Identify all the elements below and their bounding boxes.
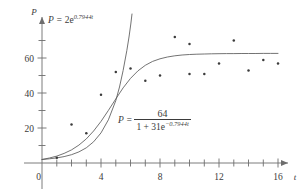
logistic-denominator-prefix: 1 + 31e xyxy=(136,122,165,132)
x-tick-label-12: 12 xyxy=(214,172,224,182)
data-point xyxy=(56,157,59,160)
logistic-growth-figure: 0 4 8 12 16 20 40 60 P t P = 2e0.7944t P… xyxy=(0,0,305,195)
x-tick-labels: 0 4 8 12 16 xyxy=(36,172,283,182)
data-point xyxy=(188,73,191,76)
logistic-denominator-exponent: −0.7944t xyxy=(165,120,189,127)
data-point xyxy=(277,62,280,65)
plot-area: 0 4 8 12 16 20 40 60 P t xyxy=(0,0,305,195)
exponential-equation-lhs: P = xyxy=(48,15,62,25)
data-point xyxy=(100,94,103,97)
logistic-equation-lhs: P = xyxy=(118,116,132,126)
y-tick-label-60: 60 xyxy=(25,54,35,64)
data-point xyxy=(262,59,265,62)
data-point xyxy=(129,67,132,70)
x-axis-arrowhead xyxy=(281,160,288,166)
data-points-group xyxy=(56,36,280,159)
data-point xyxy=(85,132,88,135)
data-point xyxy=(159,74,162,77)
exponential-equation-base: 2e xyxy=(65,15,74,25)
exponential-equation-exponent: 0.7944t xyxy=(74,13,93,20)
data-point xyxy=(203,73,206,76)
logistic-curve xyxy=(42,53,278,159)
data-point xyxy=(247,69,250,72)
logistic-equation-denominator: 1 + 31e−0.7944t xyxy=(134,120,190,133)
logistic-equation-label: P = 64 1 + 31e−0.7944t xyxy=(118,109,191,133)
x-tick-label-8: 8 xyxy=(158,172,163,182)
data-point xyxy=(115,71,118,74)
logistic-equation-numerator: 64 xyxy=(134,109,190,119)
x-tick-label-4: 4 xyxy=(99,172,104,182)
exponential-equation-label: P = 2e0.7944t xyxy=(48,14,93,26)
y-tick-label-40: 40 xyxy=(25,89,35,99)
data-point xyxy=(70,123,73,126)
x-tick-label-0: 0 xyxy=(36,172,41,182)
x-tick-label-16: 16 xyxy=(273,172,283,182)
y-axis-label: P xyxy=(30,7,37,17)
data-point xyxy=(218,62,221,65)
data-point xyxy=(174,36,177,39)
data-point xyxy=(233,39,236,42)
x-axis-label: t xyxy=(294,172,297,182)
data-point xyxy=(144,80,147,83)
y-tick-labels: 20 40 60 xyxy=(25,54,35,134)
y-tick-label-20: 20 xyxy=(25,124,35,134)
y-axis-arrowhead xyxy=(39,17,45,24)
logistic-equation-fraction: 64 1 + 31e−0.7944t xyxy=(134,109,190,133)
data-point xyxy=(188,43,191,46)
